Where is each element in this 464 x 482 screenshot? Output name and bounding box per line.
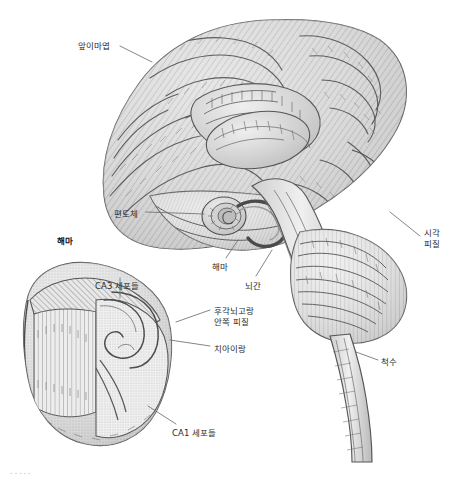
leader-brainstem — [256, 250, 272, 276]
label-brainstem: 뇌간 — [245, 281, 261, 292]
label-spinal-cord: 척수 — [381, 357, 397, 368]
label-dentate-gyrus: 치아이랑 — [214, 344, 246, 355]
label-ca3-cells: CA3 세포들 — [95, 281, 140, 292]
label-prefrontal-lobe: 앞이마엽 — [78, 41, 110, 52]
label-hippocampus: 해마 — [212, 262, 228, 273]
leader-prefrontal-lobe — [120, 46, 152, 62]
label-hippocampus-inset-title: 해마 — [57, 236, 73, 247]
label-rhinal-sulcus-entorhinal-cortex: 후각뇌고랑 안쪽 피질 — [214, 306, 255, 327]
amygdala-shape — [202, 197, 246, 235]
label-visual-cortex: 시각 피질 — [424, 228, 440, 249]
label-amygdala: 편도체 — [114, 209, 138, 220]
spinal-cord-shape — [330, 334, 372, 462]
leader-visual-cortex — [390, 212, 420, 236]
label-ca1-cells: CA1 세포들 — [172, 428, 217, 439]
footer-dots: ..... — [10, 466, 32, 476]
brain-anatomy-figure: 앞이마엽 편도체 해마 해마 뇌간 시각 피질 척수 CA3 세포들 후각뇌고랑… — [0, 0, 464, 482]
leader-rhinal-entorhinal — [176, 310, 210, 322]
leader-dentate-gyrus — [170, 340, 210, 346]
leader-spinal-cord — [356, 352, 378, 360]
